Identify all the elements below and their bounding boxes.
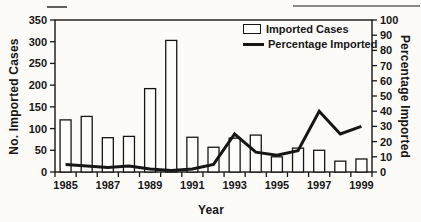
- bar-1998: [335, 161, 346, 172]
- bar-1989: [145, 89, 156, 172]
- x-tick-label-1999: 1999: [349, 179, 373, 191]
- right-tick-label: 40: [380, 105, 392, 117]
- bar-1990: [166, 40, 177, 172]
- right-tick-label: 20: [380, 136, 392, 148]
- left-tick-label: 0: [41, 166, 47, 178]
- x-tick-label-1985: 1985: [53, 179, 77, 191]
- bar-1986: [81, 116, 92, 172]
- legend-item-imported-cases: Imported Cases: [243, 23, 377, 35]
- legend: Imported Cases Percentage Imported: [243, 23, 377, 50]
- left-tick-label: 200: [29, 79, 47, 91]
- right-tick-label: 30: [380, 120, 392, 132]
- left-axis-title: No. Imported Cases: [7, 21, 22, 173]
- x-axis-title: Year: [161, 203, 261, 217]
- x-tick-label-1989: 1989: [138, 179, 162, 191]
- left-tick-label: 350: [29, 14, 47, 26]
- x-tick-label-1997: 1997: [307, 179, 331, 191]
- x-tick-label-1987: 1987: [96, 179, 120, 191]
- legend-label-imported-cases: Imported Cases: [266, 23, 349, 35]
- bar-1993: [229, 138, 240, 172]
- legend-item-percentage-imported: Percentage Imported: [243, 38, 377, 50]
- x-tick-label-1991: 1991: [180, 179, 204, 191]
- bar-1995: [271, 157, 282, 172]
- bar-swatch-icon: [243, 24, 261, 34]
- right-tick-label: 0: [380, 166, 386, 178]
- left-tick-label: 300: [29, 36, 47, 48]
- right-tick-label: 70: [380, 60, 392, 72]
- left-tick-label: 100: [29, 123, 47, 135]
- figure: 0501001502002503003500102030405060708090…: [0, 0, 421, 222]
- right-tick-label: 60: [380, 75, 392, 87]
- x-tick-label-1993: 1993: [222, 179, 246, 191]
- bar-1999: [356, 159, 367, 172]
- bar-1997: [314, 150, 325, 172]
- right-tick-label: 10: [380, 151, 392, 163]
- legend-label-percentage-imported: Percentage Imported: [268, 38, 377, 50]
- right-tick-label: 90: [380, 29, 392, 41]
- left-tick-label: 250: [29, 57, 47, 69]
- left-tick-label: 150: [29, 101, 47, 113]
- line-swatch-icon: [243, 43, 264, 46]
- right-tick-label: 50: [380, 90, 392, 102]
- right-axis-title: Percentage Imported: [397, 21, 412, 173]
- right-tick-label: 80: [380, 44, 392, 56]
- left-tick-label: 50: [35, 144, 47, 156]
- x-tick-label-1995: 1995: [265, 179, 289, 191]
